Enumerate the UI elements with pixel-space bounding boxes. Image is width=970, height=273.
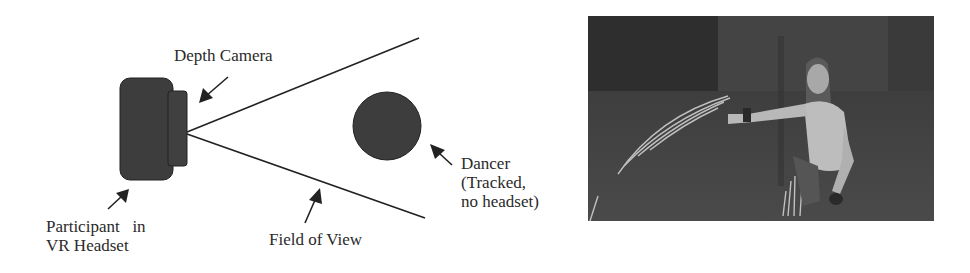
- field-of-view-arrow-icon: [305, 188, 322, 223]
- depth-camera-shape: [168, 91, 187, 166]
- dancer-photo: [588, 16, 934, 221]
- dancer-photo-illustration: [588, 16, 934, 221]
- figure: Depth Camera Participant in VR Headset F…: [0, 0, 970, 273]
- field-of-view-label: Field of View: [269, 230, 362, 249]
- depth-camera-arrow-icon: [199, 77, 228, 103]
- dancer-arrow-icon: [430, 144, 452, 165]
- dancer-label: Dancer (Tracked, no headset): [461, 154, 539, 211]
- participant-label: Participant in VR Headset: [46, 217, 146, 255]
- participant-arrow-icon: [108, 189, 129, 209]
- participant-headset-shape: [120, 78, 173, 180]
- dancer-shape: [353, 92, 421, 160]
- depth-camera-label: Depth Camera: [174, 46, 273, 65]
